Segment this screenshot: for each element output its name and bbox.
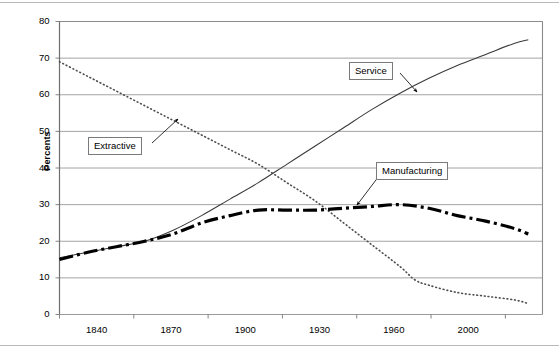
- x-tick-label: 1960: [371, 324, 417, 335]
- series-line-manufacturing: [60, 205, 529, 260]
- x-tick-label: 2000: [445, 324, 491, 335]
- y-tick-label: 30: [26, 198, 50, 209]
- x-tick-label: 1900: [222, 324, 268, 335]
- data-series-group: [60, 40, 529, 304]
- annotation-leaders-group: [152, 73, 417, 205]
- gridlines-group: [60, 22, 543, 315]
- y-tick-label: 40: [26, 162, 50, 173]
- callout-service[interactable]: Service: [349, 62, 393, 80]
- y-tick-label: 10: [26, 271, 50, 282]
- y-tick-label: 80: [26, 15, 50, 26]
- x-tick-marks-group: [60, 315, 506, 319]
- y-tick-label: 70: [26, 52, 50, 63]
- chart-screenshot: Percents 01020304050607080 1840187019001…: [0, 0, 559, 360]
- chart-plot: [0, 0, 559, 360]
- callout-manufacturing[interactable]: Manufacturing: [376, 162, 448, 180]
- x-tick-label: 1870: [148, 324, 194, 335]
- y-tick-label: 50: [26, 125, 50, 136]
- x-tick-label: 1930: [297, 324, 343, 335]
- leader-line-manufacturing: [357, 176, 379, 205]
- y-tick-label: 60: [26, 88, 50, 99]
- y-tick-label: 0: [26, 308, 50, 319]
- x-tick-label: 1840: [74, 324, 120, 335]
- series-line-extractive: [60, 62, 529, 304]
- callout-extractive[interactable]: Extractive: [88, 137, 142, 155]
- y-tick-label: 20: [26, 235, 50, 246]
